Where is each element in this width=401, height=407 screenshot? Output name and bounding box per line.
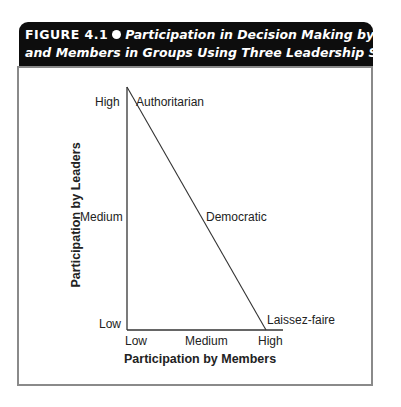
y-tick-high: High <box>95 95 120 109</box>
label-democratic: Democratic <box>206 210 267 224</box>
x-tick-medium: Medium <box>185 334 228 348</box>
label-authoritarian: Authoritarian <box>136 95 204 109</box>
x-axis-title: Participation by Members <box>124 352 276 366</box>
y-tick-medium: Medium <box>80 210 123 224</box>
y-tick-low: Low <box>99 317 121 331</box>
label-laissez-faire: Laissez-faire <box>267 313 335 327</box>
x-tick-high: High <box>258 334 283 348</box>
style-line <box>127 87 266 330</box>
y-axis-title: Participation by Leaders <box>69 135 83 295</box>
x-tick-low: Low <box>125 334 147 348</box>
